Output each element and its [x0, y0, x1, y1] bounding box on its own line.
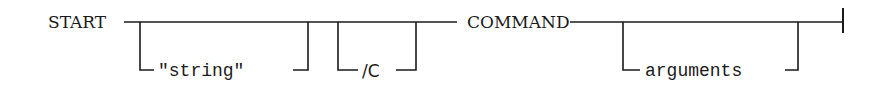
syntax-diagram: START "string" /C COMMAND arguments [0, 0, 880, 88]
string-label: "string" [158, 61, 244, 81]
branch-left-string [140, 22, 154, 70]
arguments-label: arguments [645, 61, 742, 81]
branch-right-c [396, 22, 416, 70]
start-keyword: START [48, 12, 107, 32]
c-switch-label: /C [362, 61, 380, 81]
optional-c-branch: /C [338, 22, 416, 81]
branch-left-c [338, 22, 358, 70]
optional-string-branch: "string" [140, 22, 308, 81]
optional-arguments-branch: arguments [623, 22, 798, 81]
branch-right-string [293, 22, 308, 70]
command-keyword: COMMAND [467, 12, 570, 32]
branch-left-arguments [623, 22, 640, 70]
branch-right-arguments [785, 22, 798, 70]
